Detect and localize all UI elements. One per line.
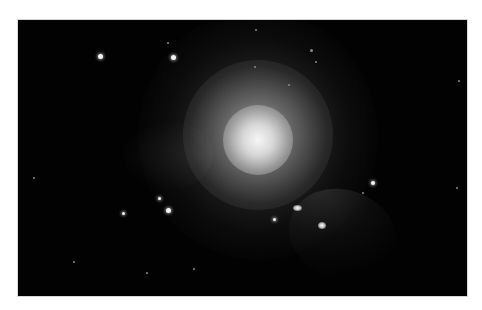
star (167, 42, 169, 44)
star (73, 261, 75, 263)
star (193, 268, 195, 270)
star (456, 187, 458, 189)
star (255, 29, 257, 31)
star (171, 55, 176, 60)
star (362, 192, 364, 194)
star (254, 66, 256, 68)
galaxy-tidal-tail (276, 174, 410, 296)
star (458, 80, 460, 82)
star (371, 181, 375, 185)
small-galaxy (293, 205, 302, 211)
star (310, 49, 313, 52)
star (273, 218, 276, 221)
galaxy-photo (18, 20, 467, 296)
galaxy-core (223, 105, 293, 175)
star (288, 84, 290, 86)
small-galaxy (318, 222, 326, 229)
star (33, 177, 35, 179)
star (98, 54, 103, 59)
star (122, 212, 125, 215)
star (146, 272, 148, 274)
galaxy-left-extension (123, 120, 213, 190)
star (166, 208, 171, 213)
star (158, 197, 161, 200)
star (315, 61, 317, 63)
